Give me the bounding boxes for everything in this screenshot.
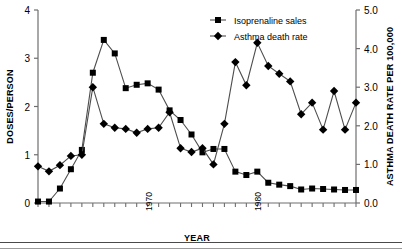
data-point-1-14 (187, 148, 195, 156)
data-point-0-14 (189, 131, 195, 137)
data-point-0-8 (123, 85, 129, 91)
legend: Isoprenaline salesAsthma death rate (210, 16, 308, 42)
y-tick-label-left-1: 1 (24, 150, 30, 161)
data-point-1-23 (286, 77, 294, 85)
x-tick-label-1970: 1970 (144, 192, 154, 211)
data-point-0-21 (265, 180, 271, 186)
y-tick-label-right-2: 2.0 (364, 121, 378, 132)
y-tick-label-left-0: 0 (24, 198, 30, 209)
legend-diamond-icon (214, 32, 222, 40)
data-point-0-19 (243, 172, 249, 178)
data-point-0-11 (156, 87, 162, 93)
data-point-0-17 (221, 146, 227, 152)
data-point-0-29 (353, 187, 359, 193)
data-point-1-7 (111, 124, 119, 132)
y-tick-label-right-4: 4.0 (364, 44, 378, 55)
y-tick-label-left-4: 4 (24, 5, 30, 16)
data-point-1-9 (132, 129, 140, 137)
data-point-0-20 (254, 169, 260, 175)
data-point-0-18 (232, 169, 238, 175)
chart-canvas: 012340.01.02.03.04.05.019701980DOSES/PER… (0, 0, 402, 249)
data-point-1-16 (209, 160, 217, 168)
data-point-0-16 (210, 146, 216, 152)
y-axis-title-left: DOSES/PERSON (5, 69, 15, 143)
data-point-1-21 (264, 62, 272, 70)
y-tick-label-right-1: 1.0 (364, 159, 378, 170)
y-tick-label-right-3: 3.0 (364, 82, 378, 93)
data-point-0-5 (90, 70, 96, 76)
data-point-0-27 (331, 186, 337, 192)
data-point-1-1 (45, 167, 53, 175)
data-point-1-0 (34, 162, 42, 170)
legend-square-icon (215, 17, 221, 23)
chart-figure: 012340.01.02.03.04.05.019701980DOSES/PER… (0, 0, 402, 249)
legend-marker-square-icon (215, 17, 221, 23)
data-point-0-9 (134, 82, 140, 88)
y-tick-label-right-5: 5.0 (364, 5, 378, 16)
series-asthma-death-rate (34, 39, 360, 176)
data-point-0-7 (112, 50, 118, 56)
data-point-0-10 (145, 80, 151, 86)
data-point-1-13 (176, 144, 184, 152)
data-point-0-24 (298, 186, 304, 192)
legend-label-0: Isoprenaline sales (234, 16, 307, 26)
data-point-0-23 (287, 183, 293, 189)
data-point-0-25 (309, 186, 315, 192)
y-tick-label-left-3: 3 (24, 53, 30, 64)
data-point-0-1 (46, 199, 52, 205)
data-point-1-6 (100, 120, 108, 128)
data-point-1-22 (275, 69, 283, 77)
y-axis-title-right: ASTHMA DEATH RATE PER 100,000 (385, 27, 395, 186)
data-point-1-18 (231, 58, 239, 66)
data-point-1-29 (352, 98, 360, 106)
data-point-0-22 (276, 182, 282, 188)
data-point-1-19 (242, 81, 250, 89)
data-point-1-17 (220, 120, 228, 128)
x-tick-label-1980: 1980 (253, 192, 263, 211)
data-point-1-28 (341, 125, 349, 133)
data-point-0-28 (342, 187, 348, 193)
y-tick-label-left-2: 2 (24, 102, 30, 113)
data-point-0-2 (57, 186, 63, 192)
data-point-0-3 (68, 166, 74, 172)
data-point-0-26 (320, 186, 326, 192)
data-point-1-8 (122, 125, 130, 133)
y-tick-label-right-0: 0.0 (364, 198, 378, 209)
data-point-1-27 (330, 87, 338, 95)
data-point-1-11 (154, 124, 162, 132)
data-point-1-10 (143, 125, 151, 133)
footer-rule-top (0, 242, 402, 243)
data-point-0-0 (35, 199, 41, 205)
legend-marker-diamond-icon (214, 32, 222, 40)
data-point-0-13 (178, 117, 184, 123)
legend-label-1: Asthma death rate (234, 32, 308, 42)
data-point-1-26 (319, 125, 327, 133)
data-point-0-6 (101, 37, 107, 43)
series-isoprenaline-sales (35, 37, 359, 205)
